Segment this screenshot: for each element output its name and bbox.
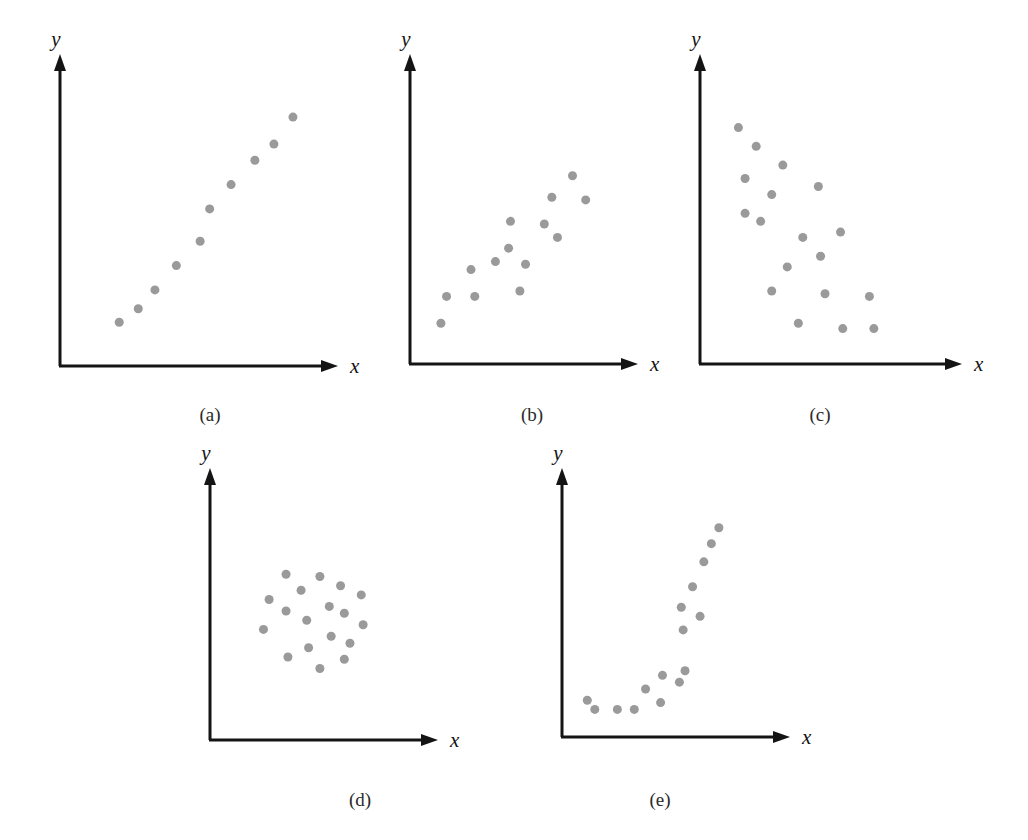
scatter-point [302, 616, 311, 625]
scatter-point [250, 156, 259, 165]
panel-caption-e: (e) [620, 789, 700, 811]
scatter-point [707, 539, 716, 548]
y-axis-arrow-icon [204, 468, 216, 485]
x-axis-label: x [449, 728, 460, 752]
scatter-point [836, 228, 845, 237]
scatter-point [150, 285, 159, 294]
scatter-point [269, 140, 278, 149]
scatter-point [658, 671, 667, 680]
x-axis-label: x [973, 352, 984, 376]
scatter-point [741, 209, 750, 218]
panel-caption-c: (c) [780, 404, 860, 426]
y-axis-arrow-icon [556, 468, 568, 485]
x-axis-label: x [801, 725, 812, 749]
scatter-point [540, 220, 549, 229]
x-axis-arrow-icon [421, 734, 438, 746]
scatter-point [783, 262, 792, 271]
scatter-point [838, 324, 847, 333]
scatter-point [679, 625, 688, 634]
scatter-panel-e: yx [554, 450, 804, 743]
scatter-point [327, 632, 336, 641]
scatter-point [470, 292, 479, 301]
scatter-point [590, 705, 599, 714]
x-axis-label: x [649, 352, 660, 376]
scatter-point [583, 696, 592, 705]
scatter-point [259, 625, 268, 634]
scatter-point [515, 287, 524, 296]
scatter-point [345, 639, 354, 648]
scatter-point [196, 237, 205, 246]
scatter-point [357, 590, 366, 599]
scatter-point [767, 190, 776, 199]
scatter-point [677, 603, 686, 612]
scatter-point [681, 666, 690, 675]
y-axis-arrow-icon [694, 54, 706, 71]
scatter-point [741, 174, 750, 183]
y-axis-label: y [199, 441, 211, 465]
scatter-point [288, 113, 297, 122]
scatter-point [675, 678, 684, 687]
x-axis-label: x [349, 354, 360, 378]
x-axis-arrow-icon [621, 358, 638, 370]
panel-caption-a: (a) [170, 404, 250, 426]
y-axis-arrow-icon [404, 54, 416, 71]
scatter-point [734, 123, 743, 132]
scatter-point [304, 643, 313, 652]
scatter-panel-a: yx [52, 36, 352, 381]
scatter-point [265, 595, 274, 604]
scatter-point [283, 653, 292, 662]
scatter-point [798, 233, 807, 242]
scatter-point [467, 265, 476, 274]
x-axis-arrow-icon [773, 731, 790, 743]
scatter-point [630, 705, 639, 714]
scatter-point [752, 142, 761, 151]
y-axis-label: y [49, 27, 61, 51]
scatter-point [714, 523, 723, 532]
scatter-panel-b: yx [402, 36, 652, 379]
scatter-point [205, 204, 214, 213]
scatter-point [315, 664, 324, 673]
scatter-point [340, 655, 349, 664]
scatter-point [282, 607, 291, 616]
scatter-point [641, 684, 650, 693]
scatter-point [816, 252, 825, 261]
x-axis-arrow-icon [945, 358, 962, 370]
scatter-point [115, 318, 124, 327]
y-axis-arrow-icon [54, 54, 66, 71]
scatter-point [340, 609, 349, 618]
scatter-point [547, 193, 556, 202]
scatter-point [794, 319, 803, 328]
scatter-point [172, 261, 181, 270]
scatter-point [568, 171, 577, 180]
scatter-point [504, 244, 513, 253]
scatter-point [134, 304, 143, 313]
scatter-point [521, 260, 530, 269]
scatter-point [656, 698, 665, 707]
scatter-point [696, 612, 705, 621]
scatter-point [506, 217, 515, 226]
scatter-point [359, 620, 368, 629]
panel-caption-b: (b) [492, 404, 572, 426]
scatter-point [699, 557, 708, 566]
scatter-panel-c: yx [692, 36, 977, 379]
scatter-point [581, 195, 590, 204]
scatter-point [767, 287, 776, 296]
scatterplot-figure: yx (a) yx (b) yx (c) yx (d) yx (e) [0, 0, 1028, 840]
scatter-point [436, 319, 445, 328]
y-axis-label: y [689, 27, 701, 51]
scatter-point [865, 292, 874, 301]
scatter-point [442, 292, 451, 301]
scatter-point [756, 217, 765, 226]
scatter-point [297, 586, 306, 595]
scatter-point [491, 257, 500, 266]
y-axis-label: y [551, 441, 563, 465]
scatter-point [227, 180, 236, 189]
scatter-point [814, 182, 823, 191]
scatter-point [688, 582, 697, 591]
scatter-point [613, 705, 622, 714]
x-axis-arrow-icon [321, 360, 338, 372]
scatter-point [778, 161, 787, 170]
scatter-point [553, 233, 562, 242]
scatter-point [282, 570, 291, 579]
scatter-panel-d: yx [202, 450, 452, 746]
